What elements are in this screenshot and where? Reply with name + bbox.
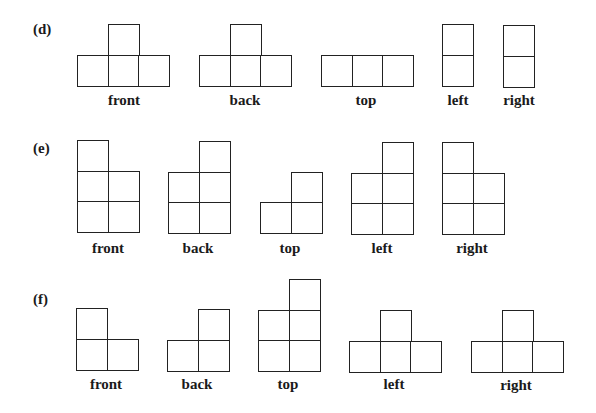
grid-square (502, 341, 534, 373)
view-label-f-back: back (182, 376, 213, 393)
grid-square (168, 172, 200, 204)
grid-square (291, 202, 323, 234)
grid-square (199, 202, 231, 234)
grid-square (199, 55, 231, 87)
view-label-f-front: front (90, 376, 122, 393)
grid-square (260, 202, 292, 234)
grid-square (168, 202, 200, 234)
grid-square (503, 56, 535, 88)
grid-square (382, 203, 414, 235)
grid-square (258, 340, 290, 372)
part-label-e: (e) (33, 140, 50, 157)
grid-square (380, 310, 412, 342)
grid-square (532, 341, 564, 373)
grid-square (77, 55, 109, 87)
grid-square (442, 55, 474, 87)
view-label-d-back: back (230, 92, 261, 109)
grid-square (107, 339, 139, 371)
grid-square (289, 279, 321, 311)
grid-square (77, 201, 109, 233)
grid-square (198, 309, 230, 341)
view-label-f-right: right (500, 377, 532, 394)
grid-square (108, 24, 140, 56)
grid-square (138, 55, 170, 87)
view-label-e-front: front (92, 240, 124, 257)
view-label-f-top: top (278, 376, 299, 393)
view-label-e-top: top (280, 240, 301, 257)
grid-square (352, 55, 384, 87)
grid-square (258, 310, 290, 342)
grid-square (382, 173, 414, 205)
grid-square (108, 171, 140, 203)
grid-square (77, 171, 109, 203)
view-label-f-left: left (384, 376, 405, 393)
grid-square (410, 341, 442, 373)
grid-square (473, 173, 505, 205)
grid-square (199, 141, 231, 173)
grid-square (351, 173, 383, 205)
grid-square (503, 25, 535, 57)
view-label-e-right: right (456, 240, 488, 257)
grid-square (289, 310, 321, 342)
grid-square (108, 55, 140, 87)
grid-square (108, 201, 140, 233)
grid-square (442, 24, 474, 56)
grid-square (382, 142, 414, 174)
part-label-d: (d) (33, 21, 51, 38)
grid-square (230, 55, 262, 87)
part-label-f: (f) (33, 291, 48, 308)
grid-square (473, 203, 505, 235)
view-label-e-left: left (372, 240, 393, 257)
grid-square (351, 203, 383, 235)
grid-square (289, 340, 321, 372)
grid-square (380, 341, 412, 373)
grid-square (442, 142, 474, 174)
grid-square (198, 340, 230, 372)
grid-square (76, 339, 108, 371)
grid-square (442, 203, 474, 235)
grid-square (167, 340, 199, 372)
view-label-d-front: front (108, 92, 140, 109)
view-label-e-back: back (183, 240, 214, 257)
grid-square (76, 308, 108, 340)
view-label-d-top: top (356, 92, 377, 109)
grid-square (260, 55, 292, 87)
view-label-d-left: left (448, 92, 469, 109)
orthographic-views-diagram: (d)frontbacktopleftright(e)frontbacktopl… (0, 0, 596, 413)
grid-square (321, 55, 353, 87)
grid-square (349, 341, 381, 373)
grid-square (471, 341, 503, 373)
view-label-d-right: right (503, 92, 535, 109)
grid-square (230, 24, 262, 56)
grid-square (502, 310, 534, 342)
grid-square (77, 140, 109, 172)
grid-square (199, 172, 231, 204)
grid-square (382, 55, 414, 87)
grid-square (291, 172, 323, 204)
grid-square (442, 173, 474, 205)
